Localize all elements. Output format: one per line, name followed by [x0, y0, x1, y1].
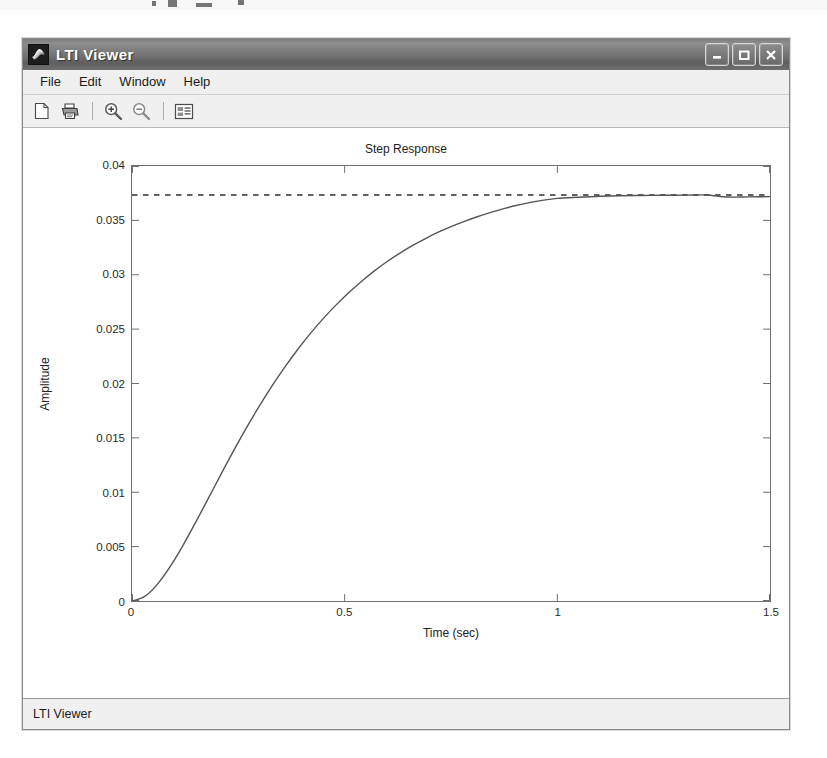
window-title: LTI Viewer — [56, 46, 134, 63]
toolbar-separator — [92, 102, 93, 120]
y-tick-label: 0.03 — [103, 268, 131, 280]
y-tick-label: 0.04 — [103, 159, 131, 171]
status-text: LTI Viewer — [33, 707, 92, 721]
matlab-membrane-icon — [28, 44, 49, 65]
y-tick-label: 0.025 — [96, 323, 131, 335]
chart-title: Step Response — [23, 142, 789, 156]
axis-tick-marks — [132, 166, 770, 601]
scan-artifact-strip — [0, 0, 827, 10]
x-tick-label: 0.5 — [336, 606, 352, 618]
x-tick-label: 1 — [554, 606, 560, 618]
menu-item-help[interactable]: Help — [175, 72, 220, 92]
y-tick-label: 0.035 — [96, 214, 131, 226]
maximize-button[interactable] — [732, 43, 756, 66]
y-tick-label: 0.005 — [96, 541, 131, 553]
step-response-curve — [132, 195, 770, 601]
scan-artifact-mark — [152, 1, 156, 6]
y-axis-label: Amplitude — [37, 165, 53, 602]
y-tick-label: 0.02 — [103, 378, 131, 390]
scan-artifact-mark — [196, 3, 212, 7]
close-button[interactable] — [759, 43, 783, 66]
window-caption-buttons — [705, 43, 786, 66]
axes-box — [131, 165, 771, 602]
menubar: File Edit Window Help — [23, 70, 789, 95]
plot-area: Step Response Amplitude 00.0050.010.0150… — [23, 128, 789, 698]
zoom-out-button[interactable] — [128, 99, 154, 123]
statusbar: LTI Viewer — [23, 698, 789, 729]
scan-artifact-mark — [168, 0, 177, 7]
y-axis-label-text: Amplitude — [38, 357, 52, 410]
y-axis-tick-labels: 00.0050.010.0150.020.0250.030.0350.04 — [63, 165, 131, 602]
x-axis-label: Time (sec) — [131, 626, 771, 640]
toolbar-separator — [163, 102, 164, 120]
scan-artifact-mark — [238, 0, 244, 5]
menu-item-file[interactable]: File — [31, 72, 70, 92]
x-tick-label: 0 — [128, 606, 134, 618]
menu-item-window[interactable]: Window — [110, 72, 174, 92]
toolbar — [23, 95, 789, 128]
y-tick-label: 0.015 — [96, 432, 131, 444]
x-tick-label: 1.5 — [763, 606, 779, 618]
minimize-button[interactable] — [705, 43, 729, 66]
zoom-in-button[interactable] — [100, 99, 126, 123]
y-tick-label: 0.01 — [103, 487, 131, 499]
lti-viewer-window: LTI Viewer — [22, 38, 790, 730]
new-document-button[interactable] — [29, 99, 55, 123]
menu-item-edit[interactable]: Edit — [70, 72, 110, 92]
page-background: LTI Viewer — [0, 0, 827, 758]
window-titlebar: LTI Viewer — [23, 39, 789, 70]
plot-canvas — [132, 166, 770, 601]
properties-button[interactable] — [171, 99, 197, 123]
print-button[interactable] — [57, 99, 83, 123]
x-axis-tick-labels: 00.511.5 — [131, 606, 771, 622]
